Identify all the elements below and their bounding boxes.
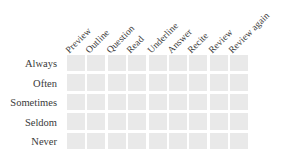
survey-response-matrix: PreviewOutlineQuestionReadUnderlineAnswe… [0, 0, 289, 168]
response-cell[interactable] [108, 74, 126, 90]
response-cell[interactable] [87, 133, 105, 149]
response-cell[interactable] [210, 133, 228, 149]
response-cell[interactable] [230, 113, 248, 129]
response-cell[interactable] [230, 94, 248, 110]
response-cell[interactable] [128, 55, 146, 71]
response-cell[interactable] [108, 55, 126, 71]
response-cell[interactable] [108, 133, 126, 149]
response-cell[interactable] [149, 55, 167, 71]
response-cell[interactable] [169, 55, 187, 71]
response-cell[interactable] [128, 94, 146, 110]
response-cell[interactable] [149, 113, 167, 129]
response-cell[interactable] [210, 113, 228, 129]
response-cell[interactable] [169, 113, 187, 129]
response-cell-grid [67, 55, 248, 149]
response-cell[interactable] [108, 113, 126, 129]
response-cell[interactable] [67, 74, 85, 90]
response-cell[interactable] [67, 133, 85, 149]
row-label-sometimes: Sometimes [0, 94, 62, 113]
response-cell[interactable] [67, 94, 85, 110]
response-cell[interactable] [169, 133, 187, 149]
column-header-band: PreviewOutlineQuestionReadUnderlineAnswe… [0, 0, 289, 55]
response-cell[interactable] [149, 74, 167, 90]
response-cell[interactable] [189, 74, 207, 90]
response-cell[interactable] [87, 113, 105, 129]
response-cell[interactable] [128, 113, 146, 129]
response-cell[interactable] [169, 94, 187, 110]
response-cell[interactable] [210, 74, 228, 90]
row-label-seldom: Seldom [0, 113, 62, 132]
response-cell[interactable] [189, 113, 207, 129]
row-label-never: Never [0, 133, 62, 152]
row-label-column: AlwaysOftenSometimesSeldomNever [0, 55, 62, 152]
response-cell[interactable] [210, 55, 228, 71]
response-cell[interactable] [67, 55, 85, 71]
response-cell[interactable] [189, 55, 207, 71]
response-cell[interactable] [169, 74, 187, 90]
response-cell[interactable] [230, 74, 248, 90]
response-cell[interactable] [189, 133, 207, 149]
response-cell[interactable] [189, 94, 207, 110]
response-cell[interactable] [108, 94, 126, 110]
response-cell[interactable] [149, 94, 167, 110]
row-label-often: Often [0, 74, 62, 93]
response-cell[interactable] [230, 133, 248, 149]
response-cell[interactable] [87, 74, 105, 90]
response-cell[interactable] [87, 94, 105, 110]
response-cell[interactable] [128, 74, 146, 90]
response-cell[interactable] [67, 113, 85, 129]
row-label-always: Always [0, 55, 62, 74]
response-cell[interactable] [210, 94, 228, 110]
response-cell[interactable] [230, 55, 248, 71]
response-cell[interactable] [87, 55, 105, 71]
response-cell[interactable] [128, 133, 146, 149]
response-cell[interactable] [149, 133, 167, 149]
